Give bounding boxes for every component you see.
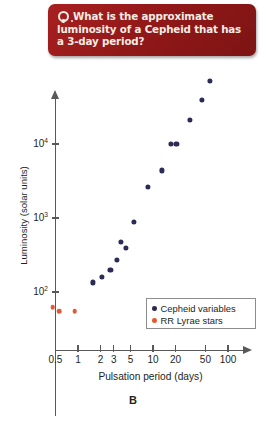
data-point-cepheid [199,98,204,103]
data-point-cepheid [187,118,192,123]
data-point-cepheid [114,257,119,262]
data-point-rrlyrae [57,309,62,314]
data-point-cepheid [108,267,113,272]
x-tick-mark [227,345,228,352]
x-tick-mark [205,345,206,352]
data-point-cepheid [174,141,179,146]
y-axis-arrow-icon [51,90,59,99]
question-callout: What is the approximate luminosity of a … [48,4,256,56]
data-point-rrlyrae [50,305,55,310]
chart-legend: Cepheid variablesRR Lyrae stars [146,298,256,329]
legend-label: RR Lyrae stars [161,315,223,326]
x-tick-label: 20 [161,354,191,365]
data-point-cepheid [132,220,137,225]
y-axis-line [55,98,56,416]
x-tick-mark [152,345,153,352]
y-tick-mark [52,291,59,292]
x-axis-title: Pulsation period (days) [55,371,246,382]
data-point-cepheid [208,78,213,83]
question-period-dot [71,20,73,22]
x-tick-mark [175,345,176,352]
data-point-cepheid [124,246,129,251]
x-axis-line [55,350,246,351]
x-axis-arrow-icon [243,346,252,354]
x-tick-mark [100,345,101,352]
data-point-rrlyrae [72,309,77,314]
legend-item: RR Lyrae stars [152,315,250,327]
legend-swatch-icon [152,318,157,323]
question-bubble-icon [58,11,69,22]
data-point-cepheid [159,168,164,173]
data-point-cepheid [91,280,96,285]
legend-item: Cepheid variables [152,303,250,315]
panel-label: B [0,394,266,406]
x-tick-mark [77,345,78,352]
x-tick-mark [113,345,114,352]
question-text: What is the approximate luminosity of a … [57,10,248,48]
legend-swatch-icon [152,306,157,311]
y-tick-mark [52,217,59,218]
legend-label: Cepheid variables [161,303,236,314]
data-point-cepheid [118,239,123,244]
data-point-cepheid [100,274,105,279]
x-tick-mark [55,345,56,352]
x-tick-mark [130,345,131,352]
data-point-cepheid [145,185,150,190]
y-tick-mark [52,143,59,144]
y-axis-title: Luminosity (solar units) [18,131,29,301]
x-tick-label: 100 [213,354,243,365]
scatter-plot: 102103104 0.51235102050100 Luminosity (s… [0,60,266,380]
